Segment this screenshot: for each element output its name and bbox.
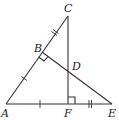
label-c: C (64, 2, 73, 15)
label-a: A (0, 107, 9, 120)
right-angle-marker-f (68, 97, 75, 104)
label-d: D (71, 60, 81, 73)
label-f: F (63, 107, 72, 120)
segment-ac (6, 16, 68, 104)
geometry-diagram: C B D A F E (0, 0, 119, 120)
right-angle-marker-b (39, 57, 49, 62)
label-b: B (33, 42, 42, 55)
label-e: E (107, 107, 116, 120)
